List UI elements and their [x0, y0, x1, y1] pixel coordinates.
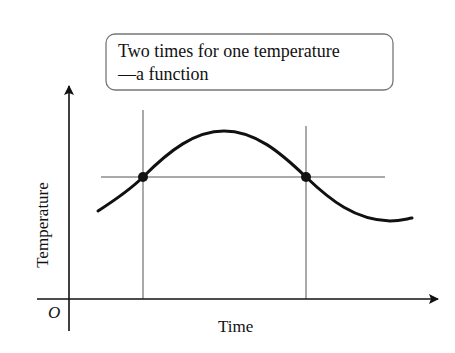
callout-box: Two times for one temperature —a functio…: [106, 34, 393, 90]
intersection-point-t2: [301, 172, 311, 182]
callout-line-2: —a function: [117, 64, 208, 84]
origin-label: O: [48, 303, 60, 322]
intersection-point-t1: [138, 172, 148, 182]
callout-line-1: Two times for one temperature: [118, 41, 340, 61]
x-axis-label: Time: [218, 317, 253, 336]
temperature-time-diagram: Two times for one temperature —a functio…: [0, 0, 455, 353]
y-axis-label: Temperature: [33, 182, 52, 268]
